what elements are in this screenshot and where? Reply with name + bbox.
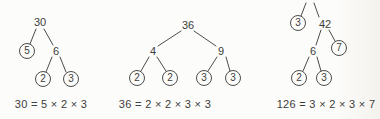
branch-line [317, 57, 321, 71]
prime-node: 5 [19, 43, 35, 59]
branch-line [157, 57, 166, 71]
branch-line [303, 57, 309, 71]
branch-line [46, 57, 52, 72]
tree-node: 4 [150, 45, 156, 57]
prime-node: 2 [162, 70, 178, 86]
branch-line [44, 29, 53, 45]
factor-trees-figure: 30 5 6 2 3 30 = 5 × 2 × 3 36 4 9 2 2 3 3… [0, 0, 380, 119]
prime-node: 3 [290, 15, 306, 31]
prime-node: 2 [35, 71, 51, 87]
tree-node: 30 [34, 16, 46, 28]
branch-line [60, 57, 66, 72]
branch-line [316, 30, 321, 45]
branch-line [208, 57, 217, 71]
branch-line [301, 3, 306, 16]
branch-line [158, 31, 181, 46]
branch-line [30, 29, 36, 44]
prime-node: 2 [291, 70, 307, 86]
tree-node: 36 [182, 19, 194, 31]
prime-node: 3 [225, 70, 241, 86]
prime-node: 3 [196, 70, 212, 86]
branch-line [141, 57, 149, 71]
tree-node-clipped: 126 [301, 0, 319, 2]
prime-node: 3 [63, 71, 79, 87]
branch-line [314, 3, 319, 17]
branch-line [329, 30, 335, 41]
branch-line [194, 31, 216, 46]
tree-node: 6 [53, 45, 59, 57]
prime-node: 7 [331, 40, 347, 56]
tree-node: 9 [218, 45, 224, 57]
prime-node: 3 [316, 70, 332, 86]
branch-line [226, 57, 230, 71]
factorization-equation: 126 = 3 × 2 × 3 × 7 [277, 98, 376, 110]
tree-node: 42 [319, 18, 331, 30]
tree-node: 6 [310, 45, 316, 57]
prime-node: 2 [129, 70, 145, 86]
factorization-equation: 30 = 5 × 2 × 3 [15, 98, 87, 110]
factorization-equation: 36 = 2 × 2 × 3 × 3 [119, 98, 211, 110]
